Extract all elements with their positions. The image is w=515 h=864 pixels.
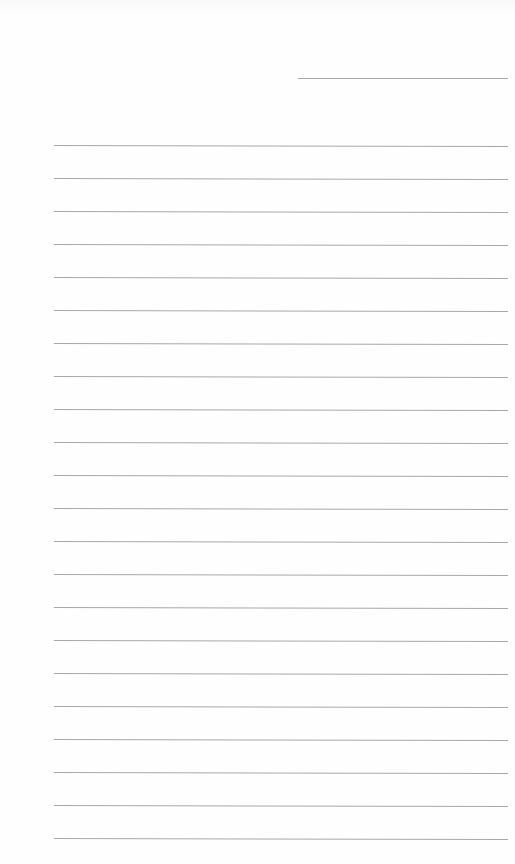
ruled-line: [54, 244, 508, 246]
scan-edge-noise: [0, 0, 515, 12]
header-date-line: [298, 78, 508, 79]
lined-paper-page: [0, 0, 515, 864]
ruled-line: [54, 310, 508, 312]
ruled-line: [54, 409, 508, 411]
ruled-line: [54, 607, 508, 609]
ruled-line: [54, 376, 508, 378]
ruled-line: [54, 574, 508, 576]
ruled-line: [54, 673, 508, 675]
ruled-line: [54, 838, 508, 840]
ruled-line: [54, 178, 508, 180]
ruled-line: [54, 145, 508, 147]
ruled-line: [54, 475, 508, 477]
ruled-line: [54, 508, 508, 510]
ruled-line: [54, 541, 508, 543]
ruled-line: [54, 277, 508, 279]
ruled-line: [54, 343, 508, 345]
ruled-line: [54, 739, 508, 741]
ruled-line: [54, 805, 508, 807]
ruled-line: [54, 706, 508, 708]
ruled-line: [54, 772, 508, 774]
ruled-line: [54, 640, 508, 642]
ruled-line: [54, 211, 508, 213]
ruled-line: [54, 442, 508, 444]
